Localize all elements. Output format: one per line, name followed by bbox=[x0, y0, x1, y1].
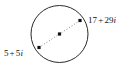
circle-diameter-figure: 17+29i 5+5i bbox=[0, 0, 129, 72]
point-lower-left-endpoint bbox=[37, 46, 40, 49]
label-upper-right-endpoint: 17+29i bbox=[88, 16, 116, 25]
point-upper-right-endpoint bbox=[78, 19, 81, 22]
point-circle-center bbox=[58, 32, 61, 35]
diagram-canvas bbox=[0, 0, 129, 72]
label-upper-right-imaginary-unit: i bbox=[114, 15, 117, 25]
label-upper-right-operator: + bbox=[98, 15, 103, 25]
label-upper-right-imaginary: 29 bbox=[104, 15, 113, 25]
label-lower-left-endpoint: 5+5i bbox=[4, 49, 23, 58]
label-lower-left-operator: + bbox=[10, 48, 15, 58]
label-upper-right-real: 17 bbox=[88, 15, 97, 25]
label-lower-left-real: 5 bbox=[4, 48, 9, 58]
label-lower-left-imaginary-unit: i bbox=[20, 48, 23, 58]
